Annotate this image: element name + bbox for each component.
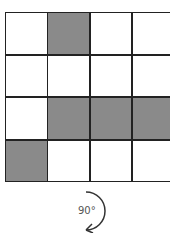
grid-cell [47,12,90,55]
grid-cell [90,97,133,140]
grid [5,12,170,182]
grid-cell [90,55,133,98]
grid-cell [5,55,48,98]
grid-cell [132,140,170,183]
grid-cell [90,140,133,183]
grid-cell [132,97,170,140]
grid-cell [5,140,48,183]
grid-cell [47,55,90,98]
grid-cell [47,97,90,140]
rotation-label: 90° [78,205,96,216]
grid-cell [90,12,133,55]
grid-cell [132,12,170,55]
grid-cell [47,140,90,183]
grid-cell [5,97,48,140]
grid-cell [132,55,170,98]
grid-cell [5,12,48,55]
